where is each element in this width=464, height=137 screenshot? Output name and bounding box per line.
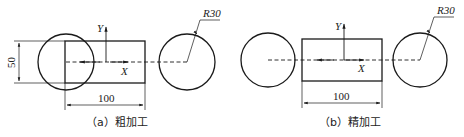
dim-label-100-b: 100 <box>333 90 350 102</box>
caption-a: （a）粗加工 <box>86 116 148 129</box>
dim-label-50: 50 <box>5 57 17 69</box>
radius-leader-b <box>420 17 434 60</box>
machining-diagram: Y X R30 100 50 （a）粗加工 Y X R30 100 （b）精加工 <box>0 0 464 137</box>
x-axis-label-b: X <box>357 62 366 74</box>
radius-label-a: R30 <box>202 7 221 19</box>
x-axis-label-a: X <box>120 65 129 77</box>
dim-label-100-a: 100 <box>98 92 115 104</box>
radius-label-b: R30 <box>436 4 455 16</box>
y-axis-label-b: Y <box>335 20 343 32</box>
y-axis-label-a: Y <box>97 22 105 34</box>
radius-leader-a <box>187 20 200 62</box>
figure-a-rough-machining <box>14 20 220 110</box>
caption-b: （b）精加工 <box>319 116 381 129</box>
